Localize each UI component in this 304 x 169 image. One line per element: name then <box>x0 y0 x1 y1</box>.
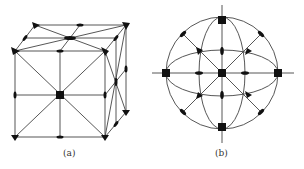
threefold-triangle-icon <box>11 47 20 55</box>
fourfold-square-icon <box>218 16 226 24</box>
cube-diagram <box>15 25 126 137</box>
twofold-ellipse-icon <box>77 24 84 27</box>
twofold-ellipse-icon <box>241 71 249 75</box>
panel-a-label: (a) <box>63 148 75 158</box>
threefold-triangle-icon <box>11 135 19 141</box>
fourfold-square-icon <box>56 91 64 99</box>
twofold-ellipse-icon <box>57 50 64 53</box>
panel-b-label: (b) <box>215 148 228 158</box>
twofold-ellipse-icon <box>57 136 64 139</box>
threefold-triangle-icon <box>101 47 109 56</box>
twofold-ellipse-icon <box>195 71 203 75</box>
fourfold-top-icon <box>64 36 76 40</box>
twofold-ellipse-icon <box>125 66 128 73</box>
fourfold-square-icon <box>274 69 282 77</box>
threefold-triangle-icon <box>101 135 109 141</box>
twofold-ellipse-icon <box>220 47 224 55</box>
twofold-ellipse-icon <box>104 92 107 99</box>
fourfold-square-icon <box>218 123 226 131</box>
fourfold-square-icon <box>218 69 226 77</box>
twofold-ellipse-icon <box>220 91 224 99</box>
fourfold-right-icon <box>115 78 118 86</box>
fourfold-square-icon <box>162 69 170 77</box>
threefold-triangle-icon <box>196 47 203 55</box>
figure-canvas <box>0 0 304 169</box>
twofold-ellipse-icon <box>14 92 17 99</box>
